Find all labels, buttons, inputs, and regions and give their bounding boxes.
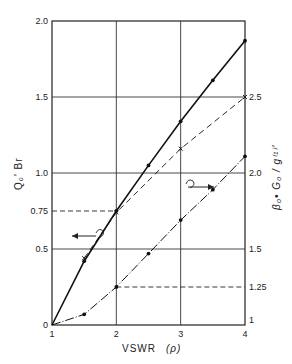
svg-text:3: 3: [178, 329, 183, 339]
svg-text:1.0: 1.0: [35, 168, 48, 178]
series-lines: [52, 39, 247, 325]
grid: [52, 21, 245, 325]
svg-text:4: 4: [242, 329, 247, 339]
svg-text:1: 1: [249, 315, 254, 325]
y-axis-label-left: Q₀' Br: [13, 157, 24, 190]
svg-text:1: 1: [49, 329, 54, 339]
chart: 00.50.751.01.52.011.251.52.02.51234 VSWR…: [0, 0, 292, 364]
svg-text:0.5: 0.5: [35, 244, 48, 254]
svg-text:2.0: 2.0: [35, 16, 48, 26]
svg-text:1.25: 1.25: [249, 282, 267, 292]
axis-indicator-arrows: [72, 180, 214, 239]
tick-labels: 00.50.751.01.52.011.251.52.02.51234: [30, 16, 266, 339]
svg-text:2.0: 2.0: [249, 168, 262, 178]
svg-text:1.5: 1.5: [35, 92, 48, 102]
y-axis-label-right: β₀• G₀ / g⁽¹⁾': [271, 145, 282, 211]
svg-text:1.5: 1.5: [249, 244, 262, 254]
svg-text:0: 0: [43, 320, 48, 330]
svg-text:0.75: 0.75: [30, 206, 48, 216]
x-axis-label: VSWR(ρ): [122, 343, 181, 354]
svg-text:2.5: 2.5: [249, 92, 262, 102]
svg-text:2: 2: [114, 329, 119, 339]
